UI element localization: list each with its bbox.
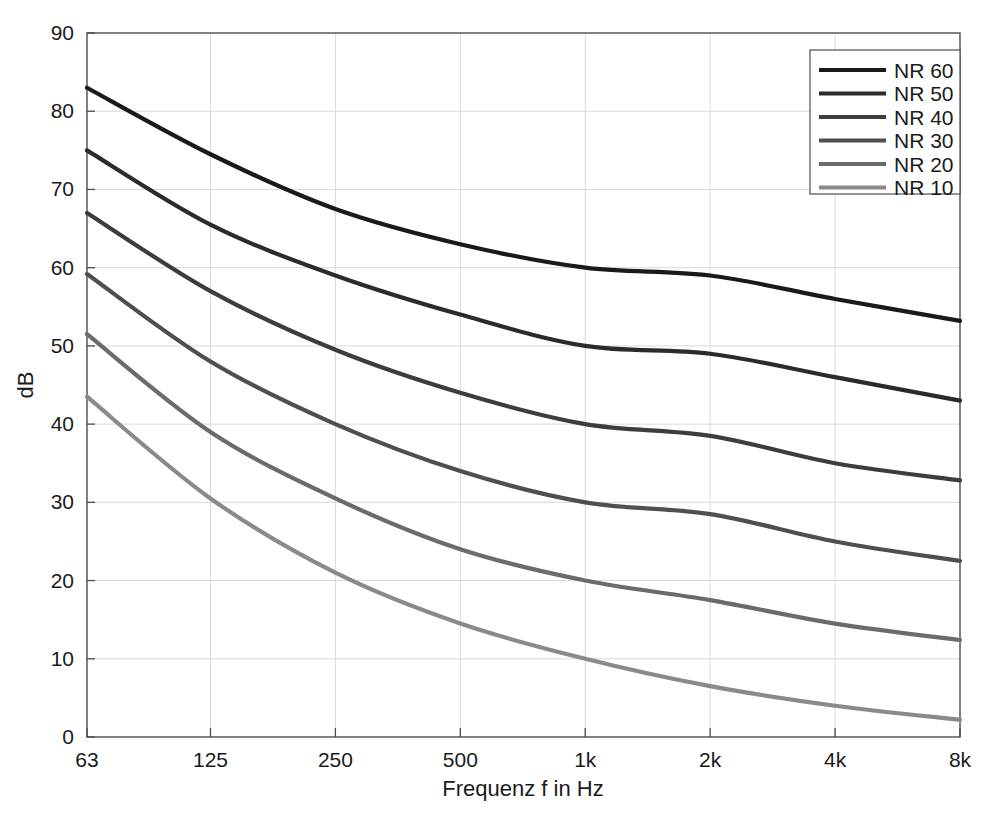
tick-label-y: 80 <box>51 99 74 122</box>
legend-label-nr-50: NR 50 <box>894 82 954 105</box>
tick-label-y: 70 <box>51 177 74 200</box>
legend-label-nr-60: NR 60 <box>894 59 954 82</box>
tick-label-x: 4k <box>824 748 847 771</box>
tick-label-y: 30 <box>51 490 74 513</box>
tick-label-y: 20 <box>51 569 74 592</box>
legend-label-nr-20: NR 20 <box>894 153 954 176</box>
tick-label-x: 125 <box>193 748 228 771</box>
tick-label-y: 60 <box>51 256 74 279</box>
tick-label-y: 10 <box>51 647 74 670</box>
tick-label-x: 8k <box>949 748 972 771</box>
legend-label-nr-10: NR 10 <box>894 176 954 199</box>
legend[interactable]: NR 60NR 50NR 40NR 30NR 20NR 10 <box>810 50 960 199</box>
tick-label-x: 250 <box>318 748 353 771</box>
x-axis-title: Frequenz f in Hz <box>442 776 603 801</box>
legend-label-nr-30: NR 30 <box>894 129 954 152</box>
tick-label-y: 90 <box>51 21 74 44</box>
tick-label-y: 0 <box>62 725 74 748</box>
legend-label-nr-40: NR 40 <box>894 106 954 129</box>
x-axis-tick-labels: 631252505001k2k4k8k <box>75 748 971 771</box>
tick-label-x: 2k <box>699 748 722 771</box>
tick-label-x: 1k <box>574 748 597 771</box>
tick-label-x: 500 <box>443 748 478 771</box>
tick-label-x: 63 <box>75 748 98 771</box>
tick-label-y: 50 <box>51 334 74 357</box>
nr-curves-chart: 0102030405060708090 631252505001k2k4k8k … <box>0 0 997 816</box>
figure-container: 0102030405060708090 631252505001k2k4k8k … <box>0 0 997 816</box>
y-axis-title: dB <box>13 372 38 399</box>
tick-label-y: 40 <box>51 412 74 435</box>
y-axis-tick-labels: 0102030405060708090 <box>51 21 74 748</box>
